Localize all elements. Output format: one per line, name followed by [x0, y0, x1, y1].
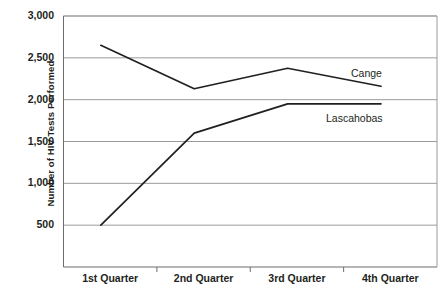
x-tick-label: 2nd Quarter: [154, 273, 254, 284]
series-label-cange: Cange: [351, 68, 382, 79]
x-tick-label: 1st Quarter: [60, 273, 160, 284]
x-tick-label: 3rd Quarter: [247, 273, 347, 284]
x-tick-label: 4th Quarter: [340, 273, 440, 284]
line-chart: Number of HIV Tests Performed 3,0002,500…: [0, 0, 445, 299]
x-axis-tick-labels: 1st Quarter2nd Quarter3rd Quarter4th Qua…: [0, 0, 445, 299]
series-label-lascahobas: Lascahobas: [326, 113, 383, 124]
